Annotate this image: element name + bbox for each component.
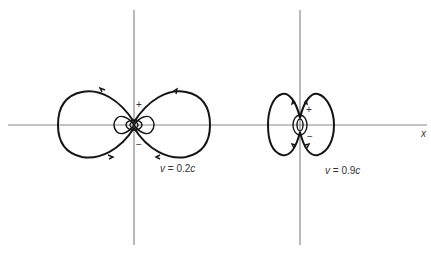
- field-diagram: [0, 0, 431, 256]
- arrow-icon: [108, 155, 113, 159]
- minus-sign: −: [136, 139, 142, 150]
- x-axis-label: x: [421, 128, 426, 139]
- velocity-label-fast: v = 0.9c: [325, 165, 360, 176]
- arrow-icon: [156, 155, 160, 159]
- minus-sign: −: [307, 131, 313, 142]
- plus-sign: +: [136, 99, 142, 110]
- velocity-label-slow: v = 0.2c: [160, 163, 195, 174]
- plus-sign: +: [306, 104, 312, 115]
- arrow-icon: [100, 88, 105, 92]
